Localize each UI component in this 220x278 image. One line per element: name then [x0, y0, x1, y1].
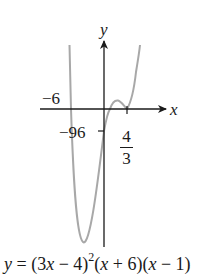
- fraction-bar: [120, 147, 133, 148]
- eq-part: − 4): [54, 254, 88, 274]
- eq-exponent: 2: [88, 250, 94, 264]
- eq-part: = (3: [12, 254, 46, 274]
- function-equation: y = (3x − 4)2(x + 6)(x − 1): [4, 253, 216, 273]
- eq-part: − 1): [156, 254, 190, 274]
- fraction-numerator: 4: [122, 128, 131, 145]
- eq-x: x: [46, 254, 54, 274]
- y-intercept-label-neg-96: −96: [59, 124, 86, 141]
- eq-part: + 6)(: [108, 254, 148, 274]
- x-axis-label: x: [170, 101, 178, 118]
- eq-y: y: [4, 254, 12, 274]
- x-intercept-label-neg-6: −6: [42, 90, 60, 107]
- y-axis-label: y: [100, 21, 108, 38]
- double-root-label-four-thirds: 4 3: [120, 128, 133, 167]
- fraction-denominator: 3: [122, 150, 131, 167]
- graph-canvas: [0, 0, 220, 278]
